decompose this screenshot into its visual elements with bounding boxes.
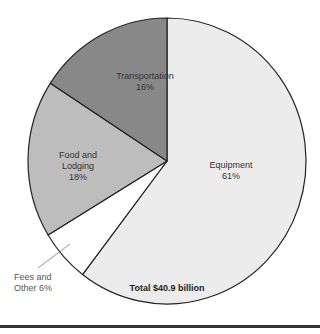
label-equipment-pct: 61%: [196, 171, 266, 182]
label-food-and-lodging: Food and Lodging 18%: [45, 150, 111, 183]
label-equipment-name: Equipment: [196, 160, 266, 171]
total-caption: Total $40.9 billion: [0, 283, 320, 293]
label-fees-line1: Fees and: [14, 272, 58, 283]
label-food-pct: 18%: [45, 172, 111, 183]
label-equipment: Equipment 61%: [196, 160, 266, 182]
label-food-line1: Food and: [45, 150, 111, 161]
label-transportation-name: Transportation: [90, 71, 200, 82]
label-transportation-pct: 16%: [90, 82, 200, 93]
bottom-rule: [0, 325, 320, 328]
label-transportation: Transportation 16%: [90, 71, 200, 93]
label-food-line2: Lodging: [45, 161, 111, 172]
